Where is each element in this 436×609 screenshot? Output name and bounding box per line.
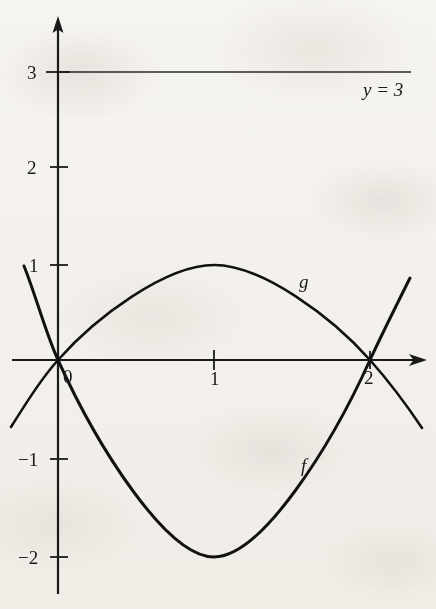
curve-label-f: f (301, 456, 306, 475)
x-tick-label-1: 1 (210, 369, 220, 388)
curve-label-g: g (299, 272, 309, 291)
curve-f (24, 266, 410, 557)
y-tick-label-minus-1: −1 (18, 450, 38, 469)
y-tick-label-3: 3 (27, 63, 37, 82)
y-tick-label-minus-2: −2 (18, 548, 38, 567)
x-tick-label-2: 2 (364, 368, 374, 387)
x-tick-label-0: 0 (63, 367, 73, 386)
curve-g (11, 265, 422, 428)
graph-figure: 3 2 1 −1 −2 0 1 2 g f y = 3 (0, 0, 436, 609)
y-equals-3-label: y = 3 (363, 80, 403, 99)
y-tick-label-2: 2 (27, 158, 37, 177)
y-tick-label-1: 1 (29, 256, 39, 275)
